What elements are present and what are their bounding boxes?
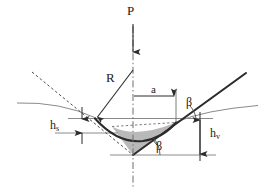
radius-arrow <box>98 70 134 117</box>
diagram-canvas <box>0 0 269 194</box>
angle-label-upper: β <box>186 96 192 108</box>
dashed-chord-line <box>112 123 176 127</box>
inclined-flank-line <box>133 73 246 155</box>
left-surface-curve <box>17 103 96 118</box>
load-label: P <box>127 4 134 17</box>
radius-label: R <box>106 71 115 84</box>
depth-label: hv <box>210 127 220 141</box>
angle-label-lower: β <box>156 140 162 152</box>
contact-radius-label: a <box>151 84 156 95</box>
pileup-height-label: hs <box>50 119 59 133</box>
indentation-diagram: P R a β β hs hv <box>0 0 269 194</box>
depth-subscript: v <box>216 132 220 141</box>
pileup-height-subscript: s <box>56 124 59 133</box>
